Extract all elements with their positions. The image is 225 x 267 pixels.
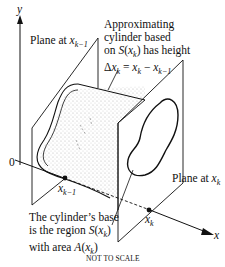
base-note: The cylinder’s base is the region S(xk) …	[29, 211, 119, 258]
point-xk-minus-1	[63, 176, 68, 181]
point-xk-label: xk	[145, 213, 154, 230]
approximating-cylinder	[37, 84, 145, 210]
y-axis	[17, 15, 23, 165]
y-axis-label: y	[17, 3, 22, 16]
plane-right-label: Plane at xk	[172, 172, 220, 189]
point-xk	[147, 208, 152, 213]
region-s-xk	[128, 99, 178, 175]
plane-left-label: Plane at xk−1	[30, 34, 88, 51]
x-axis-label: x	[214, 229, 219, 242]
not-to-scale-note: NOT TO SCALE	[86, 252, 140, 265]
point-xk-minus-1-label: xk−1	[58, 182, 76, 199]
origin-label: 0	[9, 156, 15, 169]
cylinder-note: Approximating cylinder based on S(xk) ha…	[104, 18, 190, 78]
